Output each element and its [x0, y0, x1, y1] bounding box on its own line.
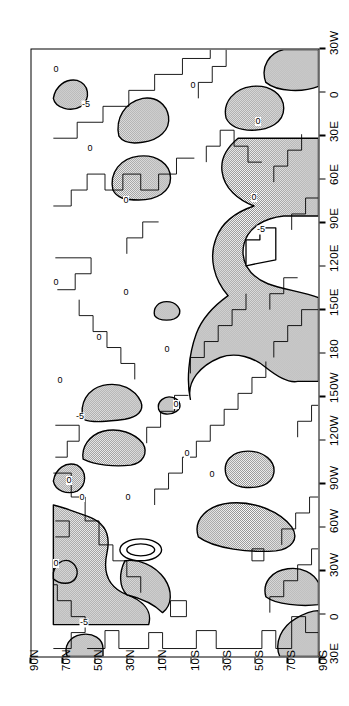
latitude-label: 10N	[156, 649, 168, 671]
contour-value-label: 0	[163, 345, 169, 354]
longitude-tick	[319, 396, 325, 397]
contour-value-label: 0	[95, 333, 101, 342]
longitude-tick	[319, 178, 325, 179]
shaded-region	[264, 50, 318, 91]
shaded-region	[197, 503, 295, 552]
latitude-label: 50S	[253, 649, 265, 670]
shaded-region	[154, 302, 179, 320]
longitude-label: 90W	[328, 465, 340, 489]
longitude-tick	[319, 483, 325, 484]
latitude-label: 70S	[285, 649, 297, 670]
longitude-label: 0	[328, 91, 340, 98]
contour-value-label: 0	[254, 117, 260, 126]
contour-value-label: 0	[123, 196, 129, 205]
longitude-tick	[319, 439, 325, 440]
longitude-label: 120E	[328, 244, 340, 272]
contour-value-label: 0	[52, 65, 58, 74]
latitude-label: 10S	[189, 649, 201, 670]
closed-contours	[119, 539, 161, 561]
contour-value-label: -5	[79, 618, 88, 627]
contour-value-label: 0	[123, 288, 129, 297]
contour-value-label: 0	[184, 449, 190, 458]
contour-value-label: 0	[52, 278, 58, 287]
contour-value-label: -5	[75, 413, 84, 422]
contour-map-figure: -5000-5000000000-50000-500 30E030W60W90W…	[0, 0, 349, 706]
contour-value-label: -5	[81, 100, 90, 109]
longitude-tick	[319, 309, 325, 310]
longitude-label: 30E	[328, 120, 340, 141]
longitude-label: 30W	[328, 30, 340, 54]
contour-value-label: 0	[87, 144, 93, 153]
shaded-region	[82, 430, 144, 466]
longitude-tick	[319, 570, 325, 571]
longitude-tick	[319, 265, 325, 266]
latitude-label: 30S	[221, 649, 233, 670]
latitude-label: 90S	[317, 649, 329, 670]
longitude-label: 90E	[328, 207, 340, 228]
contour-value-label: -5	[256, 225, 265, 234]
contour-value-label: 0	[189, 81, 195, 90]
longitude-tick	[319, 613, 325, 614]
map-canvas	[31, 50, 318, 657]
longitude-label: 30E	[328, 642, 340, 663]
latitude-label: 70N	[60, 649, 72, 671]
shaded-region	[188, 138, 318, 399]
contour-value-label: 0	[124, 493, 130, 502]
contour-value-label: 0	[56, 376, 62, 385]
shaded-region	[118, 98, 169, 143]
plot-frame: -5000-5000000000-50000-500	[30, 49, 319, 658]
longitude-label: 150E	[328, 288, 340, 316]
longitude-tick	[319, 48, 325, 49]
longitude-tick	[319, 135, 325, 136]
contour-value-label: 0	[172, 400, 178, 409]
longitude-label: 0	[328, 613, 340, 620]
longitude-label: 60W	[328, 509, 340, 533]
longitude-tick	[319, 352, 325, 353]
shaded-regions	[53, 50, 318, 657]
shaded-region	[264, 568, 318, 605]
longitude-tick	[319, 222, 325, 223]
longitude-label: 120W	[328, 415, 340, 446]
shaded-region	[225, 451, 274, 487]
latitude-label: 30N	[124, 649, 136, 671]
contour-value-label: 0	[65, 476, 71, 485]
longitude-label: 60E	[328, 164, 340, 185]
latitude-label: 50N	[92, 649, 104, 671]
longitude-label: 150W	[328, 372, 340, 403]
longitude-label: 30W	[328, 552, 340, 576]
contour-value-label: 0	[208, 470, 214, 479]
latitude-label: 90N	[28, 649, 40, 671]
contour-value-label: 0	[78, 493, 84, 502]
map-stage: -5000-5000000000-50000-500	[30, 49, 319, 658]
closed-contour-inner	[126, 544, 154, 556]
contour-value-label: 0	[52, 559, 58, 568]
shaded-region	[277, 611, 318, 657]
shaded-region	[82, 384, 142, 421]
contour-value-label: 0	[250, 193, 256, 202]
longitude-tick	[319, 91, 325, 92]
longitude-label: 180	[328, 339, 340, 359]
longitude-tick	[319, 526, 325, 527]
